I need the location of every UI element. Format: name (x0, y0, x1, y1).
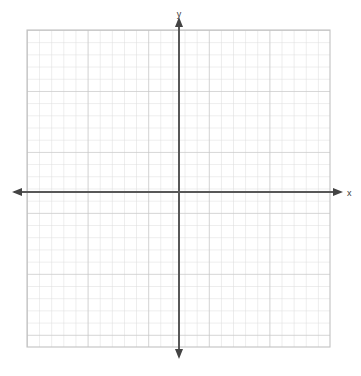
x-axis-label: x (347, 188, 352, 198)
y-axis-label: y (177, 9, 182, 19)
coordinate-plane-figure: y x (0, 0, 361, 376)
coordinate-grid-screenshot: y x (0, 0, 361, 376)
